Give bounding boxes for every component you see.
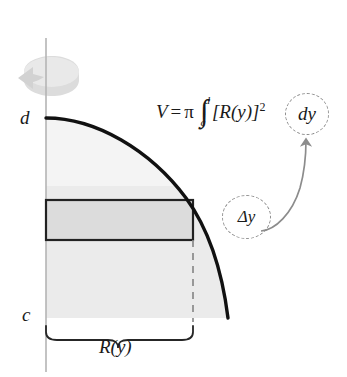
formula-pi: π [184, 102, 194, 121]
representative-disk-strip [46, 200, 193, 240]
integral-upper-limit: d [204, 95, 210, 106]
integral-lower-limit: c [200, 117, 210, 128]
axis-label-d: d [20, 108, 30, 127]
formula-integrand: [R(y)]2 [212, 101, 265, 121]
formula-exponent: 2 [259, 100, 265, 114]
formula-equals: = [171, 102, 182, 121]
radius-label: R(y) [99, 337, 132, 356]
disk-method-diagram: d c R(y) V = π ∫ d c [R(y)]2 dy Δy [0, 0, 347, 377]
diagram-canvas [0, 0, 347, 377]
volume-formula: V = π ∫ d c [R(y)]2 [156, 96, 265, 126]
formula-integral: ∫ d c [200, 96, 210, 126]
dy-annotation: dy [285, 93, 329, 135]
rotation-arrow-icon [18, 56, 79, 96]
axis-label-c: c [22, 305, 30, 324]
formula-lhs: V [156, 102, 168, 121]
delta-y-annotation: Δy [222, 195, 271, 239]
strip-rectangle [46, 200, 193, 240]
integral-limits: d c [204, 96, 210, 126]
